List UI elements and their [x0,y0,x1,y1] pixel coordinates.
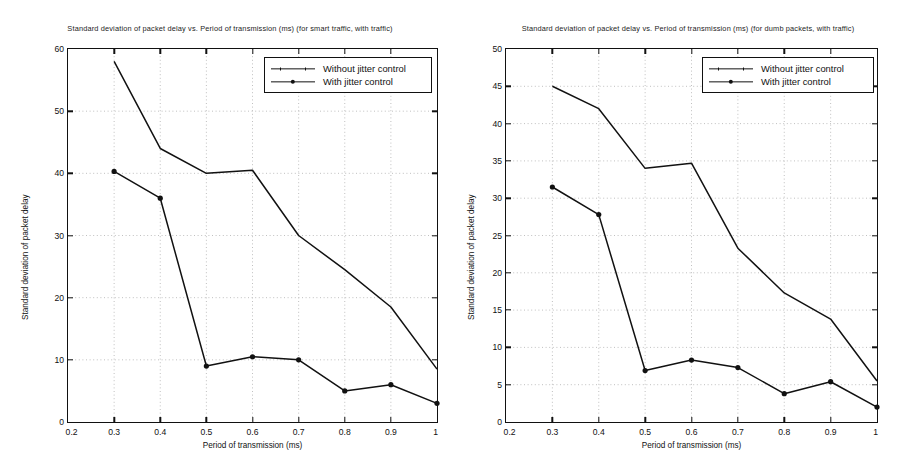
x-tick-label: 0.3 [108,427,120,437]
x-tick-mark [737,49,738,54]
x-tick-mark [252,49,253,54]
y-tick-mark [872,235,877,236]
y-tick-mark [506,347,511,348]
x-tick-label: 0.5 [639,427,651,437]
x-tick-mark [737,417,738,422]
y-tick-label: 40 [492,119,502,129]
x-tick-mark [206,417,207,422]
y-tick-label: 30 [492,193,502,203]
y-tick-mark [872,347,877,348]
y-tick-label: 45 [492,81,502,91]
y-tick-label: 10 [54,355,64,365]
x-tick-label: 0.6 [247,427,259,437]
x-tick-label: 0.6 [686,427,698,437]
y-tick-mark [506,86,511,87]
x-tick-mark [598,49,599,54]
x-tick-label: 0.4 [154,427,166,437]
y-tick-label: 0 [497,417,502,427]
legend-label: With jitter control [323,76,393,87]
x-tick-mark [552,417,553,422]
y-tick-mark [432,235,437,236]
x-tick-mark [552,49,553,54]
y-tick-mark [872,384,877,385]
y-tick-mark [872,160,877,161]
legend-label: With jitter control [761,76,831,87]
x-tick-mark [113,49,114,54]
legend-item-with-jitter-control: With jitter control [709,75,866,88]
y-tick-label: 50 [492,44,502,54]
legend: Without jitter control With jitter contr… [264,57,432,93]
y-tick-label: 15 [492,305,502,315]
x-tick-mark [598,417,599,422]
y-tick-mark [432,110,437,111]
y-tick-mark [506,272,511,273]
y-tick-label: 35 [492,156,502,166]
figure-page: Standard deviation of packet delay vs. P… [0,0,918,467]
y-tick-label: 50 [54,106,64,116]
x-tick-mark [298,417,299,422]
chart-title: Standard deviation of packet delay vs. P… [0,24,460,33]
x-tick-mark [160,49,161,54]
y-tick-label: 5 [497,380,502,390]
y-tick-mark [68,297,73,298]
x-tick-mark [344,49,345,54]
x-tick-mark [160,417,161,422]
legend-label: Without jitter control [761,63,844,74]
x-tick-label: 0.2 [504,427,516,437]
line-marker-sample-icon [271,76,315,88]
line-sample-icon [709,63,753,75]
y-tick-label: 0 [59,417,64,427]
y-tick-mark [68,359,73,360]
x-tick-mark [691,417,692,422]
y-tick-label: 25 [492,231,502,241]
x-tick-mark [691,49,692,54]
y-tick-mark [506,123,511,124]
y-tick-mark [872,197,877,198]
legend: Without jitter control With jitter contr… [702,57,874,93]
data-lines [506,49,877,422]
y-axis-label: Standard deviation of packet delay [467,194,476,320]
x-tick-label: 0.9 [825,427,837,437]
y-tick-mark [506,160,511,161]
chart-title: Standard deviation of packet delay vs. P… [458,24,918,33]
figure-smart-traffic: Standard deviation of packet delay vs. P… [0,0,460,467]
y-axis-label: Standard deviation of packet delay [21,194,30,320]
legend-item-without-jitter-control: Without jitter control [271,62,424,75]
y-tick-mark [68,235,73,236]
y-tick-label: 20 [492,268,502,278]
x-tick-label: 0.9 [385,427,397,437]
x-tick-mark [784,49,785,54]
y-tick-mark [432,359,437,360]
x-tick-label: 0.8 [778,427,790,437]
x-tick-label: 0.5 [200,427,212,437]
y-tick-mark [432,173,437,174]
x-tick-label: 0.3 [546,427,558,437]
line-marker-sample-icon [709,76,753,88]
x-axis-label: Period of transmission (ms) [68,441,437,450]
legend-item-without-jitter-control: Without jitter control [709,62,866,75]
x-tick-mark [830,417,831,422]
y-tick-mark [506,309,511,310]
x-tick-mark [830,49,831,54]
x-tick-mark [784,417,785,422]
x-tick-mark [390,417,391,422]
legend-item-with-jitter-control: With jitter control [271,75,424,88]
plot-area: 0102030405060 0.20.30.40.50.60.70.80.91 … [67,48,438,423]
legend-label: Without jitter control [323,63,406,74]
x-tick-mark [644,417,645,422]
x-tick-label: 0.8 [339,427,351,437]
y-tick-label: 40 [54,168,64,178]
y-tick-label: 20 [54,293,64,303]
x-axis-label: Period of transmission (ms) [506,441,877,450]
y-tick-mark [68,173,73,174]
x-tick-label: 0.7 [293,427,305,437]
plot-area: 05101520253035404550 0.20.30.40.50.60.70… [505,48,878,423]
y-tick-mark [506,384,511,385]
y-tick-mark [68,110,73,111]
y-tick-mark [506,197,511,198]
line-sample-icon [271,63,315,75]
y-tick-mark [872,309,877,310]
x-tick-mark [390,49,391,54]
x-tick-label: 1 [873,427,878,437]
x-tick-mark [113,417,114,422]
